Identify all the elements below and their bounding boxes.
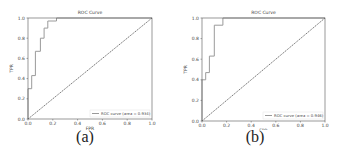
y-tick-label: 0.4 — [18, 76, 25, 81]
y-tick-label: 1.0 — [18, 16, 25, 21]
y-axis-label: TPR — [183, 65, 188, 75]
chance-diagonal-line — [202, 18, 325, 121]
x-tick-label: 0.0 — [24, 121, 31, 126]
y-tick-label: 0.8 — [192, 36, 199, 41]
y-tick-label: 0.6 — [192, 57, 199, 62]
y-tick-label: 0.0 — [192, 119, 199, 124]
roc-chart-a: ROC Curve0.00.20.40.60.81.00.00.20.40.60… — [0, 0, 170, 130]
x-tick-label: 0.2 — [49, 121, 56, 126]
x-tick-label: 1.0 — [148, 121, 155, 126]
x-tick-label: 0.8 — [124, 121, 131, 126]
panel-caption-b: (b) — [170, 128, 340, 146]
roc-chart-b: ROC Curve0.00.20.40.60.81.00.00.20.40.60… — [170, 0, 340, 130]
roc-panel-b: ROC Curve0.00.20.40.60.81.00.00.20.40.60… — [170, 0, 340, 160]
y-tick-label: 1.0 — [192, 16, 199, 21]
chart-title: ROC Curve — [78, 10, 103, 15]
y-tick-label: 0.2 — [18, 96, 25, 101]
legend-label: ROC curve (area = 0.934) — [101, 111, 151, 116]
x-tick-label: 0.4 — [74, 121, 81, 126]
y-tick-label: 0.4 — [192, 77, 199, 82]
y-tick-label: 0.6 — [18, 56, 25, 61]
y-tick-label: 0.0 — [18, 117, 25, 122]
panel-caption-a: (a) — [0, 128, 170, 146]
y-axis-label: TPR — [9, 64, 14, 74]
legend-label: ROC curve (area = 0.946) — [274, 113, 324, 118]
chance-diagonal-line — [28, 18, 152, 119]
x-tick-label: 0.6 — [99, 121, 106, 126]
roc-panel-a: ROC Curve0.00.20.40.60.81.00.00.20.40.60… — [0, 0, 170, 160]
chart-title: ROC Curve — [251, 10, 276, 15]
y-tick-label: 0.8 — [18, 36, 25, 41]
y-tick-label: 0.2 — [192, 98, 199, 103]
